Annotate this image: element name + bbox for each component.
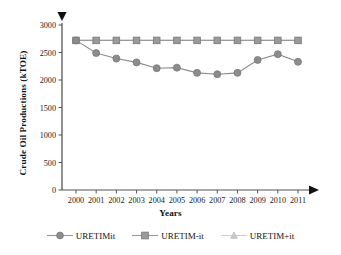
- data-point-marker: [73, 37, 80, 44]
- legend-item-uretimit[interactable]: URETIMit: [47, 230, 116, 241]
- data-point-marker: [153, 65, 160, 72]
- data-point-marker: [295, 58, 302, 65]
- y-axis-tick-label: 2500: [40, 49, 56, 58]
- chart-legend: URETIMit URETIM-it URETIM+it: [0, 230, 341, 241]
- data-point-marker: [174, 37, 181, 44]
- data-point-marker: [93, 37, 100, 44]
- series-URETIMit: [73, 37, 302, 78]
- data-point-marker: [113, 37, 120, 44]
- data-point-marker: [254, 56, 261, 63]
- data-point-marker: [133, 59, 140, 66]
- x-axis-tick-label: 2011: [290, 196, 306, 205]
- data-point-marker: [214, 37, 221, 44]
- legend-label-uretimit: URETIMit: [76, 231, 116, 241]
- x-axis-tick-label: 2002: [108, 196, 124, 205]
- series-URETIM-it: [73, 37, 302, 44]
- x-axis-tick-label: 2008: [229, 196, 245, 205]
- x-axis-tick-label: 2005: [169, 196, 185, 205]
- x-axis-tick-label: 2004: [149, 196, 165, 205]
- legend-label-uretim-minus-it: URETIM-it: [161, 231, 204, 241]
- data-point-marker: [254, 37, 261, 44]
- data-point-marker: [194, 37, 201, 44]
- legend-item-uretim-plus-it[interactable]: URETIM+it: [221, 230, 295, 241]
- chart-figure: 0500100015002000250030002000200120022003…: [0, 0, 341, 255]
- square-marker-icon: [132, 230, 158, 241]
- data-point-marker: [234, 69, 241, 76]
- data-point-marker: [133, 37, 140, 44]
- y-axis-tick-label: 3000: [40, 21, 56, 30]
- x-axis-tick-label: 2003: [128, 196, 144, 205]
- data-point-marker: [214, 71, 221, 78]
- legend-item-uretim-minus-it[interactable]: URETIM-it: [132, 230, 204, 241]
- data-point-marker: [295, 37, 302, 44]
- x-axis-tick-label: 2000: [68, 196, 84, 205]
- y-axis-tick-label: 500: [44, 159, 56, 168]
- x-axis-title: Years: [0, 208, 341, 218]
- y-axis-tick-label: 1500: [40, 104, 56, 113]
- y-axis-tick-label: 2000: [40, 76, 56, 85]
- x-axis-tick-label: 2010: [270, 196, 286, 205]
- y-axis-title: Crude Oil Productions (kTOE): [18, 28, 28, 198]
- data-point-marker: [153, 37, 160, 44]
- data-point-marker: [113, 55, 120, 62]
- circle-marker-icon: [47, 230, 73, 241]
- data-point-marker: [275, 37, 282, 44]
- data-point-marker: [93, 50, 100, 57]
- data-point-marker: [194, 69, 201, 76]
- legend-label-uretim-plus-it: URETIM+it: [250, 231, 295, 241]
- data-point-marker: [234, 37, 241, 44]
- x-axis-tick-label: 2001: [88, 196, 104, 205]
- y-axis-tick-label: 0: [52, 186, 56, 195]
- y-axis-arrowhead: [57, 12, 66, 21]
- x-axis-tick-label: 2006: [189, 196, 205, 205]
- series-line: [76, 40, 298, 74]
- data-point-marker: [274, 51, 281, 58]
- y-axis-tick-label: 1000: [40, 131, 56, 140]
- x-axis-tick-label: 2009: [249, 196, 265, 205]
- triangle-marker-icon: [221, 230, 247, 241]
- data-point-marker: [173, 64, 180, 71]
- x-axis-tick-label: 2007: [209, 196, 225, 205]
- x-axis-arrowhead: [309, 185, 319, 194]
